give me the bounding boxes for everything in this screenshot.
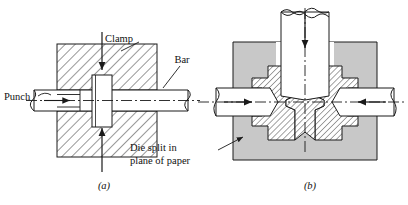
technical-diagram: Clamp Bar Punch (a) [0,0,408,205]
clamp-label: Clamp [105,33,133,44]
punch-label: Punch [4,91,31,102]
clamp-body-a [92,75,112,127]
clamp-a [92,75,112,127]
caption-b: (b) [304,180,317,192]
die-split-label-line2: plane of paper [130,155,191,166]
caption-a: (a) [98,180,111,192]
bar-label: Bar [174,54,190,65]
die-split-label-line1: Die split in [130,142,177,153]
figure-container: Clamp Bar Punch (a) [0,0,408,205]
